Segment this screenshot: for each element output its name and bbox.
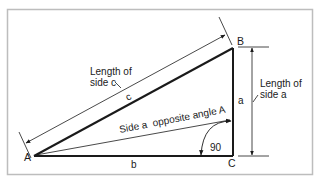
vertex-b-label: B [237,35,244,47]
right-triangle-diagram: A B C c b a Length of side c Length of s… [0,0,323,182]
side-a-label: a [238,95,244,106]
length-side-a-label-line1: Length of [260,78,302,89]
vertex-c-label: C [228,157,236,169]
vertex-a-label: A [24,151,31,163]
right-angle-value: 90 [210,142,222,153]
length-side-c-label-line1: Length of [90,66,132,77]
length-side-a-label-line2: side a [260,89,287,100]
side-b-label: b [131,159,137,170]
length-side-c-label-line2: side c [90,77,116,88]
